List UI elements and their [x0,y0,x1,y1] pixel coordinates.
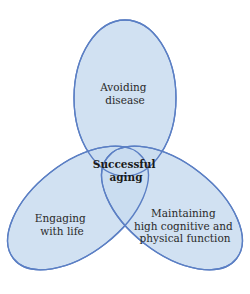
venn-diagram: Avoiding disease Successful aging Engagi… [0,0,250,294]
label-line: Engaging [35,212,86,224]
label-line: Successful [93,158,156,170]
label-line: Avoiding [99,81,147,93]
label-engaging-with-life: Engaging with life [35,212,89,237]
label-line: high cognitive and [134,220,233,232]
label-line: disease [105,94,145,106]
label-line: with life [40,225,83,237]
label-line: physical function [140,232,231,244]
label-avoiding-disease: Avoiding disease [99,81,150,106]
label-line: aging [109,171,143,183]
label-line: Maintaining [151,207,216,219]
